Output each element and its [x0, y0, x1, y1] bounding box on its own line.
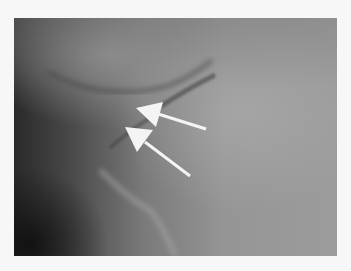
arrow-upper-icon — [136, 102, 206, 129]
arrow-lower-icon — [125, 127, 190, 176]
soft-tissue-contour — [100, 170, 175, 256]
annotation-overlay — [0, 0, 351, 271]
anatomic-edge — [48, 60, 212, 92]
